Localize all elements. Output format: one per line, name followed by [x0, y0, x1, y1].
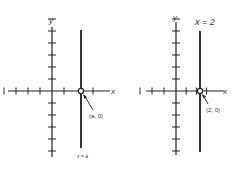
point-label: (a, 0)	[89, 113, 103, 119]
arrowhead-icon	[202, 94, 206, 99]
x-axis-label: x	[110, 87, 116, 96]
diagram-specific: y x (2, 0) x = 2	[140, 13, 228, 155]
axis-ticks	[140, 19, 207, 151]
intercept-point	[197, 88, 202, 93]
y-axis-label: y	[172, 13, 178, 22]
line-label: x = a	[76, 153, 88, 159]
line-label: x = 2	[194, 17, 215, 27]
diagram-general: y x (a, 0) x = a	[4, 16, 116, 159]
axis-ticks	[4, 19, 93, 151]
y-axis-label: y	[48, 16, 54, 25]
x-axis-label: x	[222, 87, 228, 96]
point-label: (2, 0)	[206, 107, 220, 113]
intercept-point	[78, 88, 83, 93]
figure: y x (a, 0) x = a y x (2, 0) x = 2	[0, 0, 235, 173]
